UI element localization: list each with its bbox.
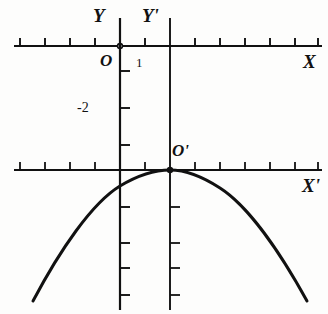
- x-prime-axis-label: X': [302, 176, 320, 195]
- tick-label-minus-two: -2: [77, 101, 89, 115]
- figure-canvas: [0, 0, 328, 314]
- y-axis-label: Y: [93, 6, 105, 25]
- origin-prime-label: O': [172, 142, 189, 159]
- origin-label: O: [100, 52, 112, 69]
- y-prime-axis-label: Y': [142, 6, 159, 25]
- x-axis-label: X: [303, 52, 316, 71]
- origin-prime-point: [167, 167, 173, 173]
- tick-label-one: 1: [136, 56, 143, 69]
- y-axis-group: [120, 18, 130, 310]
- x-axis-ticks: [20, 38, 318, 46]
- y-prime-axis-ticks: [170, 207, 180, 295]
- y-prime-axis-group: [170, 18, 180, 310]
- parabola-translated-axes-figure: Y Y' X X' O O' 1 -2: [0, 0, 328, 314]
- x-axis-group: [14, 38, 322, 48]
